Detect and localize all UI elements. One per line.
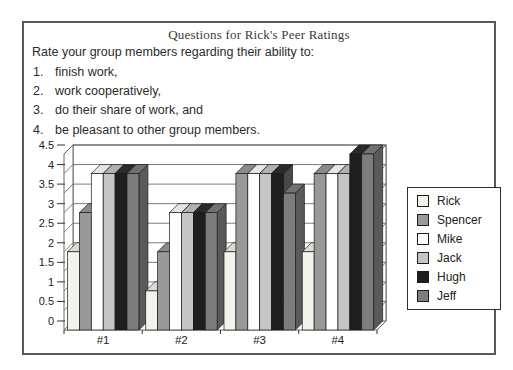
x-category-label: #2 (175, 334, 188, 346)
figure-page: Questions for Rick's Peer Ratings Rate y… (0, 0, 513, 370)
x-category-label: #3 (253, 334, 266, 346)
y-tick-label: 1.5 (39, 256, 54, 268)
legend-label: Hugh (437, 270, 466, 284)
bar-jeff-q1 (127, 165, 148, 330)
y-tick-label: 3.5 (39, 178, 54, 190)
y-axis: 00.511.522.533.544.5 (39, 139, 65, 327)
y-tick-label: 2.5 (39, 217, 54, 229)
bar-jeff-q3 (284, 184, 305, 330)
y-tick-label: 4.5 (39, 139, 54, 151)
legend-label: Mike (437, 232, 462, 246)
y-tick-label: 2 (48, 237, 54, 249)
legend-swatch (417, 195, 429, 207)
legend-item-mike: Mike (417, 232, 498, 246)
legend-swatch (417, 290, 429, 302)
x-category-label: #4 (331, 334, 344, 346)
legend-swatch (417, 233, 429, 245)
legend-item-jack: Jack (417, 251, 498, 265)
bar-jeff-q4 (362, 145, 383, 330)
legend-item-jeff: Jeff (417, 289, 498, 303)
x-axis: #1#2#3#4 (64, 330, 377, 346)
legend-label: Rick (437, 194, 460, 208)
legend-item-hugh: Hugh (417, 270, 498, 284)
legend-swatch (417, 271, 429, 283)
x-category-label: #1 (97, 334, 110, 346)
legend-swatch (417, 214, 429, 226)
legend-label: Jack (437, 251, 462, 265)
legend-label: Spencer (437, 213, 482, 227)
bar-jeff-q2 (205, 204, 226, 330)
y-tick-label: 4 (48, 159, 54, 171)
y-tick-label: 3 (48, 198, 54, 210)
legend-swatch (417, 252, 429, 264)
legend-item-rick: Rick (417, 194, 498, 208)
y-tick-label: 0.5 (39, 295, 54, 307)
chart-legend: RickSpencerMikeJackHughJeff (407, 187, 501, 310)
peer-ratings-bar-chart: 00.511.522.533.544.5#1#2#3#4 (0, 0, 513, 370)
y-tick-label: 1 (48, 276, 54, 288)
y-tick-label: 0 (48, 315, 54, 327)
legend-label: Jeff (437, 289, 456, 303)
legend-item-spencer: Spencer (417, 213, 498, 227)
